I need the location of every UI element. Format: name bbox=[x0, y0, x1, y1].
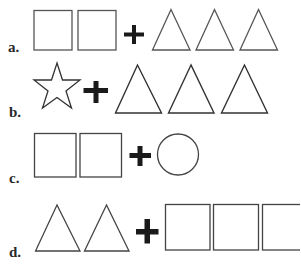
option-a[interactable] bbox=[34, 10, 278, 51]
triangle-shape bbox=[169, 65, 215, 113]
square-shape bbox=[166, 205, 211, 251]
shapes-canvas bbox=[0, 0, 300, 267]
triangle-shape bbox=[85, 205, 130, 251]
square-shape bbox=[34, 11, 72, 51]
triangle-shape bbox=[116, 65, 162, 113]
triangle-shape bbox=[222, 65, 268, 113]
star-shape bbox=[34, 63, 80, 108]
option-d[interactable] bbox=[36, 205, 301, 252]
square-shape bbox=[214, 205, 259, 251]
option-c[interactable] bbox=[35, 134, 199, 178]
triangle-shape bbox=[196, 10, 234, 51]
square-shape bbox=[35, 134, 77, 178]
answer-choices: a. b. c. d. bbox=[0, 0, 300, 267]
plus-icon bbox=[84, 81, 109, 103]
square-shape bbox=[263, 205, 301, 251]
plus-icon bbox=[136, 219, 159, 244]
square-shape bbox=[78, 11, 116, 51]
plus-icon bbox=[124, 25, 144, 44]
triangle-shape bbox=[153, 10, 191, 51]
circle-shape bbox=[158, 134, 199, 175]
plus-icon bbox=[130, 146, 152, 166]
square-shape bbox=[80, 134, 122, 178]
triangle-shape bbox=[36, 205, 81, 251]
triangle-shape bbox=[240, 10, 278, 51]
option-b[interactable] bbox=[34, 63, 268, 113]
